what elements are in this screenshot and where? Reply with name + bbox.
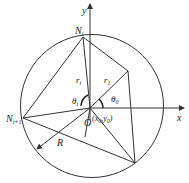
theta-0-arc: [99, 99, 103, 108]
point-n-i1-label: Ni+1: [5, 113, 21, 125]
theta-i-arc: [81, 95, 88, 106]
radius-arrow: [37, 108, 90, 149]
y-axis-label: y: [81, 5, 87, 16]
theta-0-label: θ0: [111, 94, 118, 105]
origin-coord-label: (x0,y0): [92, 114, 113, 124]
x-axis-label: x: [176, 112, 182, 123]
theta-i-label: θi: [72, 96, 78, 107]
r-i-right-label: r1: [104, 75, 111, 86]
r-i-left-label: ri: [76, 75, 82, 86]
radius-label: R: [56, 137, 63, 148]
polygon-circle-diagram: y x Ni Ni+1 O (x0,y0) ri r1 θi θ0 R: [0, 0, 189, 183]
origin-label: O: [84, 117, 91, 128]
point-n-i-label: Ni: [74, 25, 84, 37]
